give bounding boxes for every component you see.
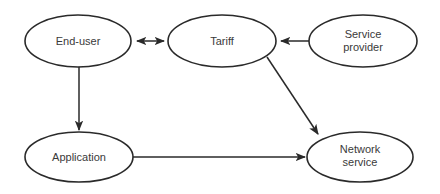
edge-tariff-networkservice (267, 57, 318, 134)
node-label: End-user (56, 35, 101, 47)
node-label-line2: provider (343, 41, 383, 53)
node-label: Tariff (210, 35, 235, 47)
node-network-service: Network service (307, 132, 413, 182)
node-label: Application (52, 151, 106, 163)
node-application: Application (25, 132, 133, 182)
node-tariff: Tariff (168, 15, 276, 67)
node-label-line1: Service (345, 28, 382, 40)
node-label-line2: service (343, 156, 378, 168)
node-label-line1: Network (340, 143, 381, 155)
node-end-user: End-user (25, 15, 131, 67)
diagram-canvas: End-user Tariff Service provider Applica… (0, 0, 440, 194)
node-service-provider: Service provider (309, 15, 417, 67)
